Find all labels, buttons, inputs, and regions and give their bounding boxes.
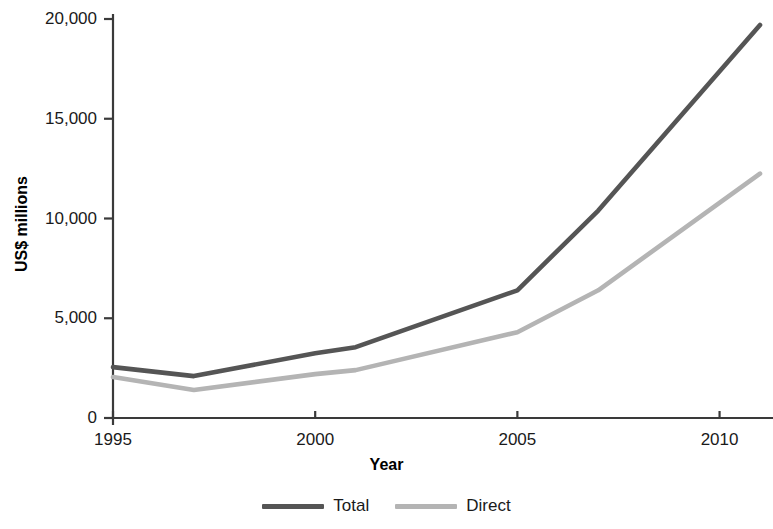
axis-lines	[113, 14, 773, 418]
legend-item-direct[interactable]: Direct	[395, 496, 510, 516]
x-tick-label: 2005	[498, 430, 536, 450]
series-line-total	[113, 25, 760, 376]
x-axis-title: Year	[0, 456, 773, 474]
chart-legend: TotalDirect	[0, 496, 773, 516]
y-tick-label: 0	[0, 408, 97, 428]
y-tick-marks	[104, 19, 113, 418]
legend-item-total[interactable]: Total	[262, 496, 369, 516]
x-tick-label: 1995	[94, 430, 132, 450]
y-tick-label: 5,000	[0, 308, 97, 328]
data-series-group	[113, 25, 760, 390]
x-tick-label: 2000	[296, 430, 334, 450]
legend-label: Total	[333, 496, 369, 516]
y-tick-label: 15,000	[0, 109, 97, 129]
y-axis-title: US$ millions	[13, 164, 31, 284]
legend-line-swatch	[262, 504, 324, 509]
x-tick-label: 2010	[701, 430, 739, 450]
line-chart: 05,00010,00015,00020,000 199520002005201…	[0, 0, 773, 529]
legend-line-swatch	[395, 504, 457, 509]
legend-label: Direct	[466, 496, 510, 516]
y-tick-label: 20,000	[0, 9, 97, 29]
series-line-direct	[113, 174, 760, 390]
